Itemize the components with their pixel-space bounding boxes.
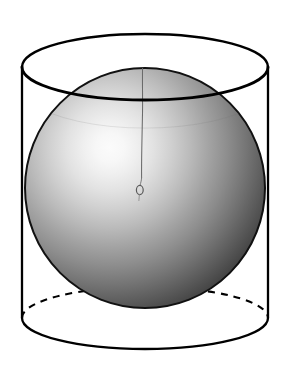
sphere-in-cylinder-diagram [0, 0, 290, 370]
sphere-body [25, 68, 265, 308]
thread-tail [139, 195, 140, 201]
sphere [25, 68, 265, 308]
figure-root: Sphere inscribed in a cylinder Sphere Cy… [0, 0, 290, 370]
